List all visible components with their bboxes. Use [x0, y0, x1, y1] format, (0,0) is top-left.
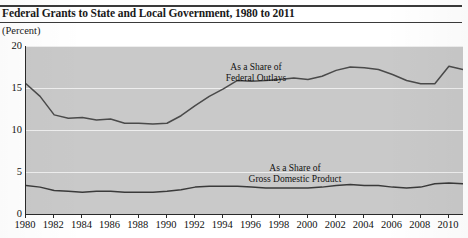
x-tick-label-1988: 1988	[127, 219, 148, 232]
y-tick-label-15: 15	[0, 83, 22, 94]
x-tick-1984	[81, 214, 82, 218]
y-tick-label-20: 20	[0, 41, 22, 52]
x-tick-1998	[279, 214, 280, 218]
x-tick-label-2000: 2000	[296, 219, 317, 232]
x-axis-labels: 1980198219841986198819901992199419961998…	[25, 219, 462, 235]
x-tick-label-2010: 2010	[437, 219, 458, 232]
annotation-gdp-line1: As a Share of	[225, 163, 365, 174]
x-tick-2006	[392, 214, 393, 218]
x-tick-1980	[25, 214, 26, 218]
annotation-federal-outlays: As a Share of Federal Outlays	[196, 62, 316, 84]
x-tick-2010	[448, 214, 449, 218]
chart-figure: Federal Grants to State and Local Govern…	[0, 0, 468, 238]
x-tick-label-1990: 1990	[155, 219, 176, 232]
x-tick-2004	[363, 214, 364, 218]
x-tick-2002	[335, 214, 336, 218]
annotation-gdp-line2: Gross Domestic Product	[225, 174, 365, 185]
x-tick-label-1982: 1982	[43, 219, 64, 232]
y-tick-label-0: 0	[0, 209, 22, 220]
x-tick-label-1994: 1994	[212, 219, 233, 232]
x-tick-1994	[222, 214, 223, 218]
x-tick-label-1996: 1996	[240, 219, 261, 232]
header-rule-bottom	[0, 22, 462, 23]
unit-label: (Percent)	[2, 25, 40, 36]
x-tick-label-2008: 2008	[409, 219, 430, 232]
y-tick-label-5: 5	[0, 167, 22, 178]
x-tick-2008	[420, 214, 421, 218]
x-tick-1986	[110, 214, 111, 218]
annotation-federal-outlays-line1: As a Share of	[196, 62, 316, 73]
x-tick-label-1986: 1986	[99, 219, 120, 232]
x-tick-1996	[251, 214, 252, 218]
x-tick-label-1980: 1980	[15, 219, 36, 232]
x-tick-label-2006: 2006	[381, 219, 402, 232]
annotation-federal-outlays-line2: Federal Outlays	[196, 73, 316, 84]
x-tick-label-2004: 2004	[353, 219, 374, 232]
x-tick-label-2002: 2002	[325, 219, 346, 232]
x-tick-1990	[166, 214, 167, 218]
annotation-gdp: As a Share of Gross Domestic Product	[225, 163, 365, 185]
x-tick-2000	[307, 214, 308, 218]
x-tick-1982	[53, 214, 54, 218]
x-tick-1992	[194, 214, 195, 218]
y-tick-label-10: 10	[0, 125, 22, 136]
x-tick-label-1984: 1984	[71, 219, 92, 232]
x-tick-1988	[138, 214, 139, 218]
x-tick-label-1998: 1998	[268, 219, 289, 232]
x-tick-label-1992: 1992	[184, 219, 205, 232]
chart-title: Federal Grants to State and Local Govern…	[2, 7, 295, 19]
y-axis-labels: 05101520	[0, 46, 22, 214]
